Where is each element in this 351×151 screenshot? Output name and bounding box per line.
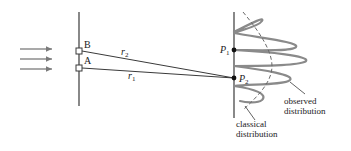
double-slit-diagram: B A r2 r1 P1 P2 observed distribution cl… (0, 0, 351, 151)
observed-leader-line (290, 82, 305, 94)
incident-light-arrows (20, 49, 52, 69)
path-r1-line (82, 68, 234, 78)
point-p2-dot (232, 76, 237, 81)
observed-label-line1: observed (284, 96, 317, 106)
slit-a-label: A (84, 55, 92, 66)
point-p2-label: P2 (238, 73, 249, 86)
classical-label-line1: classical (236, 119, 267, 129)
classical-label-line2: distribution (236, 129, 278, 139)
point-p1-label: P1 (219, 44, 230, 57)
slit-a (76, 65, 82, 71)
point-p1-dot (232, 48, 237, 53)
slit-b (76, 48, 82, 54)
path-r2-label: r2 (121, 46, 129, 59)
slit-b-label: B (84, 39, 91, 50)
observed-distribution-curve (234, 19, 306, 102)
path-r2-line (82, 51, 234, 78)
classical-leader-line (245, 106, 255, 120)
observed-label-line2: distribution (284, 106, 326, 116)
slit-barrier (76, 12, 82, 106)
classical-distribution-curve (243, 12, 272, 110)
